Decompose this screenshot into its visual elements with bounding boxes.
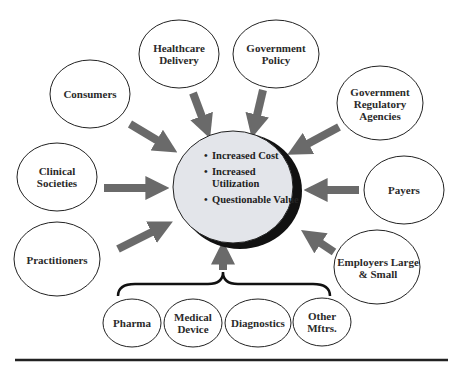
arrow-consumers xyxy=(130,124,165,145)
arrow-policy xyxy=(255,90,263,124)
label-clinical-societies: Clinical Societies xyxy=(28,163,86,191)
diagram: Consumers Healthcare Delivery Government… xyxy=(0,0,459,373)
label-pharma: Pharma xyxy=(104,313,160,333)
label-payers: Payers xyxy=(370,180,438,200)
center-item-cost: Increased Cost xyxy=(204,150,304,162)
label-healthcare-delivery: Healthcare Delivery xyxy=(146,40,212,68)
label-practitioners: Practitioners xyxy=(14,250,100,270)
manufacturers-brace xyxy=(118,272,330,296)
label-government-regulatory: Government Regulatory Agencies xyxy=(342,85,418,123)
label-employers: Employers Large & Small xyxy=(336,254,420,282)
label-consumers: Consumers xyxy=(52,82,128,106)
center-item-utilization: Increased Utilization xyxy=(204,166,304,190)
label-diagnostics: Diagnostics xyxy=(226,313,290,333)
arrow-regulatory xyxy=(300,127,339,148)
label-medical-device: Medical Device xyxy=(168,309,218,337)
arrow-practitioners xyxy=(118,228,160,249)
center-issues-list: Increased Cost Increased Utilization Que… xyxy=(204,150,304,210)
center-item-value: Questionable Value xyxy=(204,194,304,206)
arrow-employers xyxy=(313,238,334,252)
arrow-healthcare xyxy=(193,93,205,125)
label-government-policy: Government Policy xyxy=(240,40,312,68)
label-other-mftrs: Other Mftrs. xyxy=(297,308,347,336)
